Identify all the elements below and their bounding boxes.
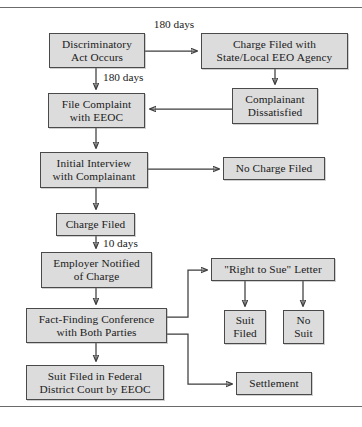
node-suit-filed-federal[interactable]: Suit Filed in Federal District Court by … [26, 365, 164, 400]
node-no-charge-filed-line1: No Charge Filed [236, 162, 313, 175]
node-employer-notified-line2: of Charge [53, 270, 140, 283]
node-employer-notified[interactable]: Employer Notified of Charge [41, 252, 152, 288]
edge-label-10-days-line1: 10 days [103, 237, 138, 249]
node-settlement[interactable]: Settlement [236, 372, 312, 395]
node-initial-interview[interactable]: Initial Interview with Complainant [40, 152, 148, 188]
bottom-horizontal-rule [0, 406, 362, 407]
node-right-to-sue[interactable]: "Right to Sue" Letter [211, 258, 335, 281]
edge-fact-finding-to-settlement [167, 334, 232, 384]
node-fact-finding-conference-line2: with Both Parties [39, 326, 155, 339]
node-discriminatory-act[interactable]: Discriminatory Act Occurs [49, 33, 145, 68]
node-discriminatory-act-line2: Act Occurs [62, 51, 132, 64]
node-discriminatory-act-line1: Discriminatory [62, 38, 132, 51]
node-charge-filed-state-line2: State/Local EEO Agency [217, 51, 333, 64]
edge-label-180-days-down: 180 days [103, 71, 143, 83]
edge-label-180-days-top-line2: days [174, 18, 195, 30]
node-suit-filed-line1: Suit [233, 314, 257, 327]
node-charge-filed-line1: Charge Filed [66, 218, 126, 231]
node-suit-filed-line2: Filed [233, 327, 257, 340]
flowchart-canvas: Discriminatory Act Occurs Charge Filed w… [0, 0, 362, 427]
node-complainant-dissatisfied-line1: Complainant [245, 93, 304, 106]
node-complainant-dissatisfied[interactable]: Complainant Dissatisfied [232, 88, 318, 124]
node-suit-filed-federal-line2: District Court by EEOC [39, 383, 150, 396]
node-right-to-sue-line1: "Right to Sue" Letter [224, 263, 322, 276]
node-employer-notified-line1: Employer Notified [53, 257, 140, 270]
node-file-complaint-eeoc[interactable]: File Complaint with EEOC [48, 93, 145, 128]
node-suit-filed-federal-line1: Suit Filed in Federal [39, 370, 150, 383]
node-fact-finding-conference-line1: Fact-Finding Conference [39, 313, 155, 326]
top-horizontal-rule [0, 7, 362, 8]
node-settlement-line1: Settlement [249, 377, 298, 390]
node-suit-filed[interactable]: Suit Filed [224, 310, 266, 344]
edge-label-180-days-top-line1: 180 [154, 18, 171, 30]
node-charge-filed-state-line1: Charge Filed with [217, 38, 333, 51]
node-complainant-dissatisfied-line2: Dissatisfied [245, 106, 304, 119]
node-no-charge-filed[interactable]: No Charge Filed [223, 157, 325, 180]
node-no-suit-line2: Suit [294, 327, 313, 340]
node-fact-finding-conference[interactable]: Fact-Finding Conference with Both Partie… [26, 308, 167, 343]
node-charge-filed-state[interactable]: Charge Filed with State/Local EEO Agency [201, 33, 348, 69]
edge-fact-finding-to-right-to-sue [167, 270, 207, 317]
edge-label-180-days-top: 180 days [152, 18, 196, 30]
node-no-suit[interactable]: No Suit [283, 310, 324, 344]
node-charge-filed[interactable]: Charge Filed [56, 213, 135, 236]
node-file-complaint-eeoc-line2: with EEOC [62, 111, 132, 124]
node-file-complaint-eeoc-line1: File Complaint [62, 98, 132, 111]
node-no-suit-line1: No [294, 314, 313, 327]
edge-label-180-days-down-line1: 180 days [103, 71, 143, 83]
edge-label-10-days: 10 days [103, 237, 138, 249]
node-initial-interview-line2: with Complainant [53, 170, 136, 183]
node-initial-interview-line1: Initial Interview [53, 157, 136, 170]
